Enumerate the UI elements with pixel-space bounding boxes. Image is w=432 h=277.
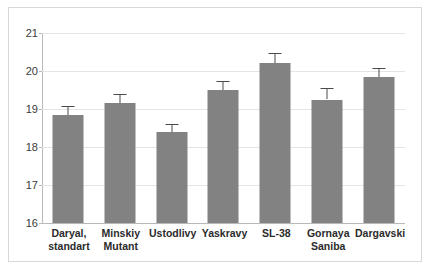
y-tick-label: 21 <box>12 28 38 39</box>
error-bar-line <box>67 106 68 114</box>
bar-group <box>94 33 146 223</box>
y-axis-tick-labels: 161718192021 <box>9 33 38 223</box>
error-bar-cap <box>217 81 230 82</box>
bar <box>208 90 239 223</box>
x-tick-label: GornayaSaniba <box>302 227 354 253</box>
bar <box>312 100 343 224</box>
x-tick-label-line: Gornaya <box>302 227 354 240</box>
error-bar-line <box>171 124 172 132</box>
bar <box>364 77 395 223</box>
bar-group <box>301 33 353 223</box>
error-bar-cap <box>165 124 178 125</box>
x-tick-label: SL-38 <box>250 227 302 240</box>
bar <box>52 115 83 223</box>
error-bar-cap <box>61 106 74 107</box>
bar-group <box>146 33 198 223</box>
error-bar-line <box>379 68 380 76</box>
error-bar-cap <box>321 88 334 89</box>
x-tick-label-line: Yaskravy <box>199 227 251 240</box>
x-axis-tick-labels: Daryal,standartMinskiyMutantUstodlivyYas… <box>43 227 405 261</box>
error-bar-line <box>275 53 276 63</box>
x-tick-label: MinskiyMutant <box>95 227 147 253</box>
bar-group <box>198 33 250 223</box>
x-tick-label-line: Saniba <box>302 240 354 253</box>
bar <box>260 63 291 223</box>
chart-frame: 161718192021 Daryal,standartMinskiyMutan… <box>8 7 422 262</box>
x-tick-label-line: SL-38 <box>250 227 302 240</box>
error-bar-cap <box>373 68 386 69</box>
x-tick-label: Yaskravy <box>199 227 251 240</box>
bar <box>156 132 187 223</box>
x-tick-label: Daryal,standart <box>43 227 95 253</box>
y-tick-label: 18 <box>12 142 38 153</box>
error-bar-line <box>223 81 224 91</box>
gridline-16 <box>42 223 405 224</box>
x-tick-label-line: Mutant <box>95 240 147 253</box>
bar <box>104 103 135 223</box>
y-tick-mark <box>39 223 42 224</box>
x-tick-label-line: Minskiy <box>95 227 147 240</box>
bar-group <box>249 33 301 223</box>
error-bar-cap <box>269 53 282 54</box>
x-tick-label: Ustodlivy <box>147 227 199 240</box>
y-tick-label: 20 <box>12 66 38 77</box>
y-tick-label: 17 <box>12 180 38 191</box>
x-tick-label: Dargavski <box>354 227 406 240</box>
bar-group <box>42 33 94 223</box>
error-bar-line <box>119 94 120 104</box>
error-bar-cap <box>113 94 126 95</box>
bar-group <box>353 33 405 223</box>
x-tick-label-line: Dargavski <box>354 227 406 240</box>
y-tick-label: 16 <box>12 218 38 229</box>
x-tick-label-line: Ustodlivy <box>147 227 199 240</box>
error-bar-line <box>327 88 328 99</box>
y-tick-label: 19 <box>12 104 38 115</box>
x-tick-label-line: standart <box>43 240 95 253</box>
plot-area <box>42 33 405 223</box>
x-tick-label-line: Daryal, <box>43 227 95 240</box>
